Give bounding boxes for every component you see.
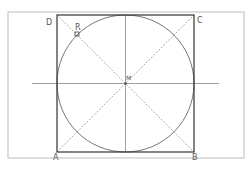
outer-frame <box>8 12 244 158</box>
label-R: R <box>75 23 81 32</box>
label-M: M <box>126 74 131 81</box>
label-C: C <box>197 16 203 25</box>
label-D: D <box>46 18 52 27</box>
diagram-stage: D C A B R M <box>0 0 251 170</box>
diagram-canvas: D C A B R M <box>0 0 251 170</box>
label-B: B <box>192 153 198 162</box>
label-A: A <box>53 153 59 162</box>
center-M-marker <box>125 83 127 85</box>
